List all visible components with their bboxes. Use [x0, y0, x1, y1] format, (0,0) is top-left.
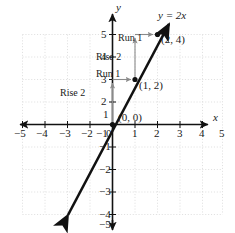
x-tick-4: 4 [199, 128, 205, 139]
y-tick-minus2: −2 [99, 164, 111, 175]
graph-figure: x y y = 2x −5 −4 −3 −2 −1 0 1 2 3 4 5 5 … [0, 0, 235, 233]
y-tick-2: 2 [101, 96, 107, 107]
x-tick-2: 2 [154, 128, 160, 139]
x-tick-minus4: −4 [36, 128, 48, 139]
x-tick-3: 3 [177, 128, 183, 139]
rise-label-lower: Rise 2 [60, 88, 85, 98]
run-label-lower: Run 1 [96, 69, 120, 79]
point-2-4-dot [155, 32, 160, 37]
point-label-2-4: (2, 4) [161, 34, 185, 45]
rise-label-upper: Rise 2 [96, 52, 121, 62]
x-axis-label: x [213, 112, 218, 123]
point-1-2-dot [132, 77, 137, 82]
y-tick-1: 1 [103, 109, 109, 120]
y-tick-5: 5 [101, 29, 107, 40]
point-label-origin: (0, 0) [118, 112, 142, 123]
x-tick-minus3: −3 [59, 128, 71, 139]
x-tick-5: 5 [219, 128, 225, 139]
x-tick-minus5: −5 [14, 128, 26, 139]
x-tick-minus2: −2 [81, 128, 93, 139]
y-axis-label: y [116, 2, 121, 13]
x-tick-zero: 0 [106, 128, 112, 139]
y-tick-minus5: −5 [99, 219, 111, 230]
x-tick-1: 1 [132, 128, 138, 139]
run-label-upper: Run 1 [118, 33, 142, 43]
equation-label: y = 2x [158, 10, 186, 21]
point-label-1-2: (1, 2) [139, 80, 163, 91]
y-tick-minus3: −3 [99, 186, 111, 197]
y-tick-minus1: −1 [99, 141, 111, 152]
